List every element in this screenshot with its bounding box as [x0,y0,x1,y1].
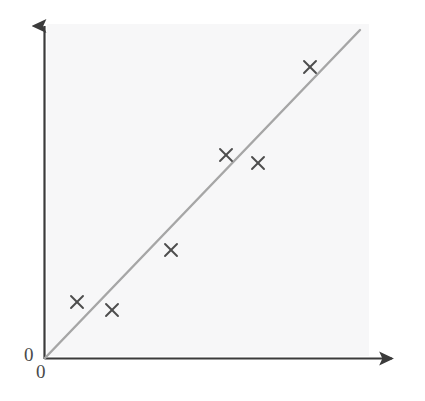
plot-canvas [0,0,425,401]
x-axis-origin-label: 0 [36,362,46,381]
y-axis-origin-label: 0 [24,345,34,364]
scatter-plot-figure: 0 0 [0,0,425,401]
